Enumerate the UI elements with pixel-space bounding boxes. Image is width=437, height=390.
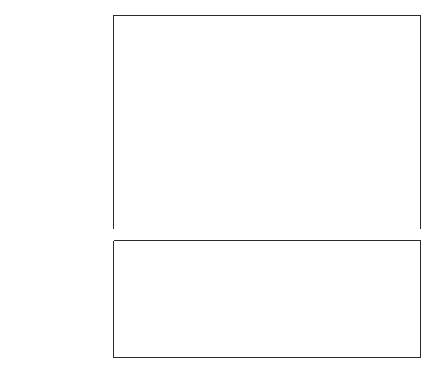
chart-svg bbox=[0, 0, 437, 390]
top-panel-frame bbox=[114, 16, 421, 229]
top-panel bbox=[114, 16, 421, 229]
bottom-panel-frame bbox=[114, 241, 421, 358]
bottom-panel bbox=[114, 241, 421, 358]
figure-container bbox=[0, 0, 437, 390]
